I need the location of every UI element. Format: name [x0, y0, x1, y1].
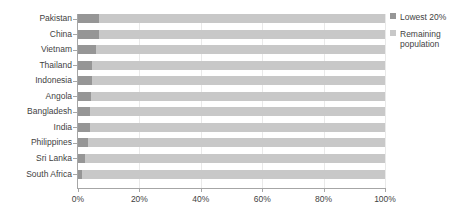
y-axis-tick [73, 143, 77, 144]
y-axis-tick [73, 112, 77, 113]
y-axis-label-bangladesh: Bangladesh [0, 107, 72, 116]
bar-segment-lowest-20[interactable] [78, 76, 92, 85]
bar-segment-lowest-20[interactable] [78, 138, 88, 147]
bar-segment-remaining-population[interactable] [90, 107, 385, 116]
bar-segment-remaining-population[interactable] [99, 30, 385, 39]
legend-item-lowest-20[interactable]: Lowest 20% [390, 12, 462, 22]
bar-segment-remaining-population[interactable] [92, 76, 385, 85]
bar-row[interactable] [78, 92, 385, 101]
y-axis-label-angola: Angola [0, 92, 72, 101]
y-axis-tick [73, 34, 77, 35]
bar-row[interactable] [78, 45, 385, 54]
bar-segment-lowest-20[interactable] [78, 123, 90, 132]
bar-row[interactable] [78, 170, 385, 179]
bar-row[interactable] [78, 76, 385, 85]
bar-row[interactable] [78, 14, 385, 23]
y-axis-label-south-africa: South Africa [0, 170, 72, 179]
bar-segment-lowest-20[interactable] [78, 92, 91, 101]
gridline-100 [385, 14, 386, 188]
bar-segment-lowest-20[interactable] [78, 154, 85, 163]
bar-segment-remaining-population[interactable] [88, 138, 385, 147]
bar-segment-remaining-population[interactable] [99, 14, 385, 23]
y-axis-label-pakistan: Pakistan [0, 14, 72, 23]
y-axis-tick [73, 50, 77, 51]
x-axis-tick [78, 188, 79, 192]
bar-row[interactable] [78, 123, 385, 132]
x-axis-tick-label-20: 20% [119, 194, 159, 204]
y-axis-tick [73, 127, 77, 128]
bar-segment-remaining-population[interactable] [91, 92, 385, 101]
bar-segment-lowest-20[interactable] [78, 107, 90, 116]
y-axis-tick [73, 81, 77, 82]
y-axis-tick [73, 65, 77, 66]
legend-swatch-icon-remaining-population [390, 30, 396, 36]
y-axis-label-thailand: Thailand [0, 61, 72, 70]
y-axis-tick [73, 174, 77, 175]
x-axis-tick-label-60: 60% [242, 194, 282, 204]
bar-row[interactable] [78, 138, 385, 147]
legend-label-remaining-population: Remaining population [400, 29, 441, 49]
legend-label-lowest-20: Lowest 20% [400, 12, 446, 22]
y-axis-tick [73, 158, 77, 159]
bar-segment-remaining-population[interactable] [92, 61, 385, 70]
x-axis-tick-label-100: 100% [365, 194, 405, 204]
y-axis-label-india: India [0, 123, 72, 132]
bar-segment-lowest-20[interactable] [78, 14, 99, 23]
y-axis-tick [73, 19, 77, 20]
chart-legend: Lowest 20% Remaining population [390, 12, 462, 56]
bar-row[interactable] [78, 154, 385, 163]
y-axis-category-labels: PakistanChinaVietnamThailandIndonesiaAng… [0, 0, 72, 216]
x-axis-line [77, 188, 386, 189]
bar-segment-remaining-population[interactable] [90, 123, 385, 132]
y-axis-label-vietnam: Vietnam [0, 45, 72, 54]
y-axis-label-philippines: Philippines [0, 138, 72, 147]
stacked-bar-chart: PakistanChinaVietnamThailandIndonesiaAng… [0, 0, 463, 216]
bar-row[interactable] [78, 107, 385, 116]
legend-swatch-icon-lowest-20 [390, 13, 396, 19]
x-axis-tick [201, 188, 202, 192]
x-axis-tick-label-40: 40% [181, 194, 221, 204]
bar-segment-lowest-20[interactable] [78, 61, 92, 70]
y-axis-tick [73, 96, 77, 97]
bar-row[interactable] [78, 61, 385, 70]
x-axis-tick-label-80: 80% [304, 194, 344, 204]
y-axis-label-sri-lanka: Sri Lanka [0, 154, 72, 163]
x-axis-tick [324, 188, 325, 192]
bar-segment-remaining-population[interactable] [85, 154, 385, 163]
y-axis-label-china: China [0, 30, 72, 39]
x-axis-tick-label-0: 0% [58, 194, 98, 204]
x-axis-tick [139, 188, 140, 192]
bar-segment-remaining-population[interactable] [82, 170, 385, 179]
x-axis-tick [385, 188, 386, 192]
bar-segment-lowest-20[interactable] [78, 30, 99, 39]
y-axis-label-indonesia: Indonesia [0, 76, 72, 85]
plot-area [78, 14, 385, 188]
bar-segment-lowest-20[interactable] [78, 45, 96, 54]
x-axis-tick [262, 188, 263, 192]
bar-row[interactable] [78, 30, 385, 39]
bar-segment-remaining-population[interactable] [96, 45, 385, 54]
legend-item-remaining-population[interactable]: Remaining population [390, 29, 462, 49]
